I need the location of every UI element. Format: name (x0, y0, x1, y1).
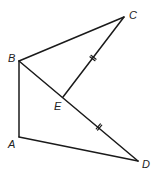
label-C: C (129, 9, 137, 21)
label-A: A (7, 138, 15, 150)
congruence-marks-group (90, 55, 102, 130)
label-E: E (54, 100, 62, 112)
segment-AD (19, 137, 138, 161)
segments-group (19, 17, 138, 161)
geometry-diagram: A B C D E (0, 0, 153, 172)
vertex-labels-group: A B C D E (7, 9, 150, 170)
segment-BC (19, 17, 124, 61)
label-D: D (142, 158, 150, 170)
label-B: B (8, 52, 15, 64)
